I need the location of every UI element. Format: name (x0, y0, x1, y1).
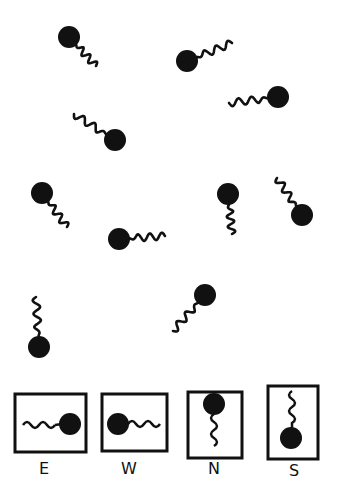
legend-west (102, 394, 167, 451)
head-icon (104, 129, 126, 151)
head-icon (267, 86, 289, 108)
swimmer (28, 297, 50, 358)
legend-south (268, 386, 318, 459)
head-icon (59, 413, 81, 435)
head-icon (176, 50, 198, 72)
tail-icon (33, 297, 41, 337)
legend-east (15, 394, 86, 452)
swimmer (217, 183, 239, 234)
tail-icon (289, 391, 295, 428)
head-icon (108, 228, 130, 250)
swimmers-field (28, 26, 313, 358)
swimmer (58, 26, 97, 66)
legend-label-s: S (289, 461, 299, 480)
head-icon (291, 204, 313, 226)
swimmer (74, 114, 126, 151)
head-icon (203, 393, 225, 415)
legend-label-n: N (208, 459, 220, 478)
tail-icon (227, 204, 235, 234)
swimmer (31, 182, 68, 227)
swimmer (108, 228, 165, 250)
head-icon (58, 26, 80, 48)
tail-icon (196, 41, 232, 57)
tail-icon (74, 114, 107, 135)
legend-north (188, 392, 242, 458)
swimmer (173, 284, 216, 332)
organism-diagram: E W N S (0, 0, 340, 502)
tail-icon (128, 421, 160, 427)
swimmer (176, 41, 232, 72)
head-icon (280, 427, 302, 449)
head-icon (107, 413, 129, 435)
legend-label-w: W (121, 459, 137, 478)
legend-label-e: E (39, 459, 49, 478)
tail-icon (129, 233, 165, 241)
head-icon (217, 183, 239, 205)
tail-icon (211, 414, 217, 446)
tail-icon (276, 178, 297, 207)
head-icon (28, 336, 50, 358)
head-icon (194, 284, 216, 306)
tail-icon (173, 303, 198, 332)
tail-icon (23, 422, 55, 428)
head-icon (31, 182, 53, 204)
tail-icon (76, 44, 97, 66)
swimmer (229, 86, 289, 108)
swimmer (276, 178, 314, 226)
tail-icon (48, 201, 69, 227)
tail-icon (229, 97, 268, 106)
